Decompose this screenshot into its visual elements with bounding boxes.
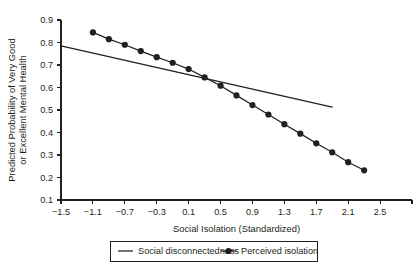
series-marker: [138, 48, 144, 54]
series-line-2: [93, 32, 364, 170]
y-axis-title-line1: Predicted Probability of Very Good: [6, 38, 17, 181]
series-marker: [201, 74, 207, 80]
x-axis-tick-label: 1.3: [278, 207, 291, 217]
x-axis-tick-label: −0.7: [116, 207, 134, 217]
x-axis-tick-label: 2.1: [342, 207, 355, 217]
series-marker: [297, 131, 303, 137]
series-marker: [361, 167, 367, 173]
series-marker: [249, 102, 255, 108]
series-marker: [154, 54, 160, 60]
y-axis-tick-label: 0.7: [40, 60, 53, 70]
series-marker: [217, 83, 223, 89]
y-axis: 0.10.20.30.40.50.60.70.80.9: [40, 15, 61, 205]
series-marker: [90, 29, 96, 35]
x-axis: −1.5−1.1−0.7−0.30.10.50.91.31.72.12.5: [52, 200, 412, 217]
y-axis-tick-label: 0.5: [40, 105, 53, 115]
x-axis-tick-label: −1.5: [52, 207, 70, 217]
data-series-group: [61, 29, 367, 173]
series-line-1: [61, 46, 332, 107]
legend-swatch-marker-2: [225, 248, 231, 254]
series-marker: [233, 92, 239, 98]
series-marker: [186, 66, 192, 72]
legend-label-2: Perceived isolation: [241, 246, 318, 256]
series-marker: [281, 121, 287, 127]
x-axis-tick-label: −1.1: [84, 207, 102, 217]
x-axis-title: Social Isolation (Standardized): [173, 223, 300, 234]
y-axis-tick-label: 0.3: [40, 150, 53, 160]
y-axis-tick-label: 0.1: [40, 195, 53, 205]
x-axis-tick-label: 0.5: [214, 207, 227, 217]
series-marker: [345, 159, 351, 165]
chart-legend: Social disconnectednessPerceived isolati…: [110, 241, 318, 261]
y-axis-tick-label: 0.6: [40, 83, 53, 93]
y-axis-title-line2: or Excellent Mental Health: [17, 55, 28, 164]
y-axis-tick-label: 0.9: [40, 15, 53, 25]
series-marker: [122, 42, 128, 48]
series-marker: [170, 60, 176, 66]
y-axis-tick-label: 0.4: [40, 128, 53, 138]
chart-canvas: 0.10.20.30.40.50.60.70.80.9 −1.5−1.1−0.7…: [0, 0, 420, 271]
x-axis-tick-label: 0.9: [246, 207, 259, 217]
series-marker: [106, 36, 112, 42]
series-marker: [313, 140, 319, 146]
y-axis-tick-label: 0.8: [40, 38, 53, 48]
series-marker: [329, 149, 335, 155]
y-axis-tick-label: 0.2: [40, 173, 53, 183]
series-marker: [265, 111, 271, 117]
x-axis-tick-label: 2.5: [374, 207, 387, 217]
x-axis-tick-label: 1.7: [310, 207, 323, 217]
chart-figure: 0.10.20.30.40.50.60.70.80.9 −1.5−1.1−0.7…: [0, 0, 420, 271]
x-axis-tick-label: −0.3: [148, 207, 166, 217]
x-axis-tick-label: 0.1: [182, 207, 195, 217]
